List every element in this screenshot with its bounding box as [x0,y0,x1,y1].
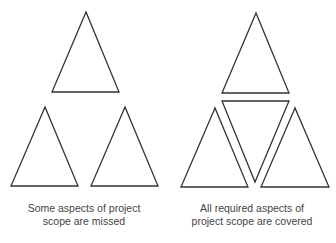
scope-triangle-bottom-right [261,108,329,187]
scope-triangle-top [222,13,289,93]
scope-triangle-bottom-left [11,107,78,186]
caption-line: project scope are covered [168,215,336,228]
caption-line: All required aspects of [168,202,336,215]
panel-covered [181,13,329,187]
scope-triangle-bottom-right [91,107,158,186]
scope-triangle-inverted-center [222,101,289,182]
scope-triangle-top [52,12,119,92]
panel-missed [11,12,158,186]
caption-covered: All required aspects of project scope ar… [168,202,336,228]
caption-missed: Some aspects of project scope are missed [0,202,168,228]
scope-triangle-bottom-left [181,108,248,187]
caption-line: Some aspects of project [0,202,168,215]
caption-line: scope are missed [0,215,168,228]
